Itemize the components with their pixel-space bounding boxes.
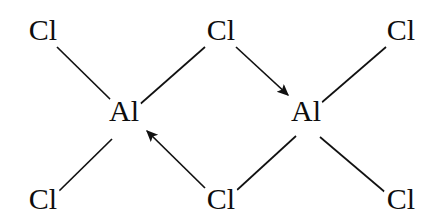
bond-cl-bottom-left--al-left	[57, 139, 112, 193]
atom-label-group: Cl Cl Cl Al Al Cl Cl Cl	[24, 12, 420, 219]
bond-cl-top-center--al-left	[138, 47, 205, 106]
atom-label-cl-bottom-center: Cl	[207, 182, 235, 215]
atom-label-cl-bottom-left: Cl	[29, 182, 57, 215]
molecule-diagram: Cl Cl Cl Al Al Cl Cl Cl	[0, 0, 424, 222]
structure-canvas: Cl Cl Cl Al Al Cl Cl Cl	[0, 0, 424, 222]
bond-group	[57, 47, 386, 193]
dative-bond-group	[147, 47, 288, 188]
atom-label-al-right: Al	[291, 94, 321, 127]
dative-arrow-cl-bottom-center--al-left	[147, 131, 205, 188]
atom-label-al-left: Al	[109, 94, 139, 127]
bond-cl-bottom-right--al-right	[320, 137, 386, 193]
dative-arrow-cl-top-center--al-right	[236, 47, 288, 95]
bond-cl-top-left--al-left	[57, 47, 112, 101]
atom-label-cl-bottom-right: Cl	[387, 182, 415, 215]
atom-label-cl-top-right: Cl	[387, 13, 415, 46]
bond-cl-bottom-center--al-right	[237, 136, 296, 190]
bond-cl-top-right--al-right	[320, 47, 386, 104]
atom-label-cl-top-center: Cl	[207, 13, 235, 46]
atom-label-cl-top-left: Cl	[29, 13, 57, 46]
